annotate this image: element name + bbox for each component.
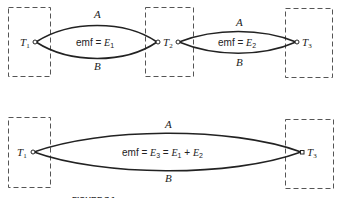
terminal-node-t1-top	[33, 40, 37, 44]
terminal-node-t3-top	[295, 40, 299, 44]
terminal-label-t3-top: T3	[302, 36, 312, 50]
emf-label-combined: emf = E3 = E1 + E2	[122, 147, 203, 159]
wire-label-a-combined: A	[164, 118, 172, 130]
terminal-node-t3-bottom	[301, 151, 305, 155]
thermocouple-diagram: T1 T2 T3 A B emf = E1 A B emf = E2 T1 T3…	[0, 0, 341, 198]
wire-label-b-loop2: B	[236, 56, 243, 68]
wire-label-a-loop1: A	[93, 8, 101, 20]
terminal-node-t2-right	[176, 40, 180, 44]
wire-label-b-combined: B	[165, 172, 172, 184]
terminal-label-t1-bottom: T1	[17, 146, 27, 160]
emf-label-loop1: emf = E1	[76, 37, 114, 49]
terminal-label-t2: T2	[163, 36, 173, 50]
wire-label-a-loop2: A	[235, 16, 243, 28]
emf-label-loop2: emf = E2	[218, 37, 256, 49]
junction-box-t1-bottom	[9, 118, 51, 188]
figure-caption: FIGURE 7.1 …	[72, 195, 126, 198]
terminal-label-t3-bottom: T3	[307, 146, 317, 160]
terminal-node-t1-bottom	[31, 150, 35, 154]
wire-label-b-loop1: B	[94, 60, 101, 72]
terminal-node-t2-left	[156, 40, 160, 44]
terminal-label-t1-top: T1	[20, 36, 30, 50]
